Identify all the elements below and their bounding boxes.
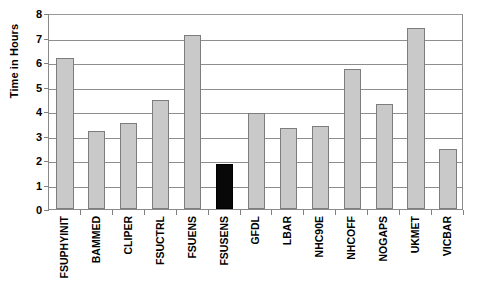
x-axis-tick-mark xyxy=(271,210,272,215)
x-axis-label-slot: FSUPHYINIT xyxy=(48,216,80,300)
x-axis-tick-mark xyxy=(367,210,368,215)
bar xyxy=(56,58,73,209)
x-axis-tick-mark xyxy=(463,210,464,215)
x-axis-tick-mark xyxy=(303,210,304,215)
y-axis-tick-labels: 876543210 xyxy=(22,14,42,210)
x-axis-category-label: NHCOFF xyxy=(343,216,359,260)
x-axis-category-label: FSUCTRL xyxy=(152,216,168,265)
y-axis-tick-label: 5 xyxy=(22,81,42,95)
y-axis-tick-mark xyxy=(44,186,49,187)
x-axis-tick-mark xyxy=(144,210,145,215)
x-axis-label-slot: VICBAR xyxy=(431,216,463,300)
x-axis-tick-mark xyxy=(176,210,177,215)
bar xyxy=(376,104,393,209)
y-axis-tick-mark xyxy=(44,112,49,113)
y-axis-title: Time in Hours xyxy=(5,0,23,161)
x-axis-tick-mark xyxy=(240,210,241,215)
plot-area xyxy=(48,14,463,210)
bar xyxy=(407,28,424,209)
bar xyxy=(439,149,456,209)
bar xyxy=(120,123,137,209)
bar-chart: Time in Hours 876543210 FSUPHYINITBAMMED… xyxy=(0,0,478,300)
y-axis-tick-mark xyxy=(44,39,49,40)
x-axis-tick-mark xyxy=(399,210,400,215)
x-axis-tick-mark xyxy=(112,210,113,215)
x-axis-category-label: CLIPER xyxy=(120,216,136,255)
x-axis-category-label: NOGAPS xyxy=(375,216,391,262)
y-axis-tick-mark xyxy=(44,88,49,89)
y-axis-tick-label: 7 xyxy=(22,32,42,46)
y-axis-tick-label: 1 xyxy=(22,179,42,193)
y-axis-tick-label: 2 xyxy=(22,154,42,168)
x-axis-tick-mark xyxy=(80,210,81,215)
bars-group xyxy=(49,15,462,209)
y-axis-tick-label: 4 xyxy=(22,105,42,119)
x-axis-category-label: BAMMED xyxy=(88,216,104,263)
x-axis-category-label: FSUPHYINIT xyxy=(56,216,72,278)
y-axis-tick-mark xyxy=(44,14,49,15)
y-axis-tick-label: 8 xyxy=(22,7,42,21)
x-axis-label-slot: NHCOFF xyxy=(335,216,367,300)
bar xyxy=(152,100,169,209)
x-axis-label-slot: NOGAPS xyxy=(367,216,399,300)
x-axis-label-slot: FSUSENS xyxy=(208,216,240,300)
bar xyxy=(216,164,233,209)
y-axis-tick-mark xyxy=(44,210,49,211)
x-axis-category-label: GFDL xyxy=(247,216,263,245)
x-axis-label-slot: UKMET xyxy=(399,216,431,300)
x-axis-tick-mark xyxy=(431,210,432,215)
bar xyxy=(248,113,265,209)
bar xyxy=(280,128,297,209)
x-axis-category-label: FSUSENS xyxy=(216,216,232,266)
x-axis-label-slot: GFDL xyxy=(240,216,272,300)
x-axis-category-label: LBAR xyxy=(279,216,295,245)
x-axis-label-slot: BAMMED xyxy=(80,216,112,300)
y-axis-tick-label: 0 xyxy=(22,203,42,217)
x-axis-label-slot: CLIPER xyxy=(112,216,144,300)
y-axis-tick-label: 3 xyxy=(22,130,42,144)
x-axis-label-slot: FSUCTRL xyxy=(144,216,176,300)
x-axis-category-label: FSUENS xyxy=(184,216,200,259)
x-axis-tick-mark xyxy=(335,210,336,215)
x-axis-category-label: UKMET xyxy=(407,216,423,253)
bar xyxy=(184,35,201,209)
x-axis-category-label: NHC90E xyxy=(311,216,327,257)
x-axis-label-slot: LBAR xyxy=(271,216,303,300)
bar xyxy=(88,131,105,209)
x-axis-category-label: VICBAR xyxy=(439,216,455,256)
y-axis-tick-label: 6 xyxy=(22,56,42,70)
y-axis-tick-mark xyxy=(44,63,49,64)
bar xyxy=(312,126,329,209)
x-axis-label-slot: NHC90E xyxy=(303,216,335,300)
bar xyxy=(344,69,361,209)
y-axis-tick-mark xyxy=(44,137,49,138)
y-axis-tick-mark xyxy=(44,161,49,162)
x-axis-tick-mark xyxy=(208,210,209,215)
x-axis-label-slot: FSUENS xyxy=(176,216,208,300)
x-axis-category-labels: FSUPHYINITBAMMEDCLIPERFSUCTRLFSUENSFSUSE… xyxy=(48,216,463,300)
